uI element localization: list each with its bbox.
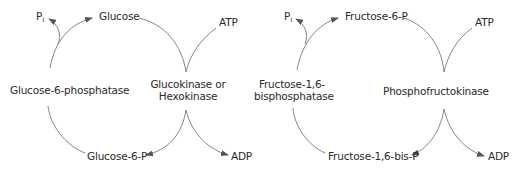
arc-f16bp-to-bisphosphatase (293, 108, 325, 153)
glucokinase-hexokinase-label: Glucokinase or Hexokinase (150, 78, 226, 102)
pi-label-left: Pi (36, 10, 44, 26)
arrow-adp-right (444, 109, 484, 156)
arc-atp-in-right (444, 28, 472, 72)
enzyme-line-2: Hexokinase (150, 90, 226, 102)
enzyme-line-1: Fructose-1,6- (254, 78, 330, 90)
glucose-label: Glucose (99, 10, 139, 22)
arc-atp-in-left (186, 28, 216, 72)
enzyme-line-1: Glucokinase or (150, 78, 226, 90)
arc-kinase-to-g6p (146, 110, 186, 155)
glucose-6-p-label: Glucose-6-P (87, 150, 147, 162)
arc-glucose-to-kinase (139, 18, 186, 72)
arrow-pi-right (296, 19, 307, 44)
arrow-pi-left (49, 19, 60, 44)
arc-g6p-to-phosphatase (48, 106, 85, 153)
adp-label-left: ADP (231, 150, 252, 162)
glucose-6-phosphatase-label: Glucose-6-phosphatase (10, 84, 129, 96)
adp-label-right: ADP (488, 150, 509, 162)
fructose-bisphosphatase-label: Fructose-1,6- bisphosphatase (254, 78, 330, 102)
atp-label-right: ATP (475, 16, 494, 28)
pi-label-right: Pi (284, 10, 292, 26)
fructose-6-p-label: Fructose-6-P (345, 10, 408, 22)
enzyme-line-2: bisphosphatase (254, 90, 330, 102)
atp-label-left: ATP (219, 16, 238, 28)
fructose-1-6-bis-p-label: Fructose-1,6-bis-P (328, 150, 418, 162)
phosphofructokinase-label: Phosphofructokinase (383, 85, 489, 97)
arrow-adp-left (186, 110, 228, 155)
arc-f6p-to-pfk (404, 18, 444, 72)
arc-pfk-to-f16bp (412, 109, 444, 155)
